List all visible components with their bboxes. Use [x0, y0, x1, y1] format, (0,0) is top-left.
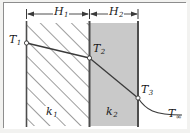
layer-label-k2: k2 [105, 106, 118, 117]
node-marker-t1 [24, 41, 28, 45]
temperature-label-t3: T3 [141, 84, 153, 95]
temperature-label-t2: T2 [92, 43, 106, 54]
layer-label-k1: k1 [45, 106, 58, 117]
dimension-label-h2: H2 [108, 6, 124, 17]
node-marker-t3 [136, 96, 140, 100]
dimension-label-h1: H1 [53, 6, 69, 17]
figure-root: H1 H2 k1 k2 T1 T2 T3 T∞ [0, 0, 190, 133]
composite-wall-diagram [4, 3, 187, 129]
temperature-label-t1: T1 [9, 34, 21, 45]
figure-frame: H1 H2 k1 k2 T1 T2 T3 T∞ [3, 2, 186, 128]
temperature-label-t-infinity: T∞ [168, 108, 181, 119]
node-marker-t2 [87, 56, 91, 60]
